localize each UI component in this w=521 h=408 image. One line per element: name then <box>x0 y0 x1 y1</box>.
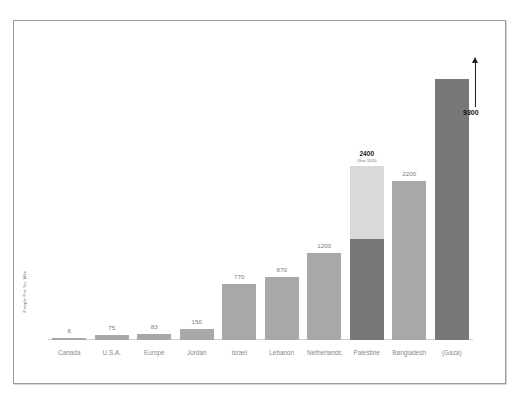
bar-slot: 14002400(Year 2020) <box>346 51 389 340</box>
bar-value-sublabel: (Year 2020) <box>357 159 377 163</box>
bar-segment <box>52 338 86 340</box>
bar-segment <box>392 181 426 341</box>
bar-series: 87583150770870120014002400(Year 2020)220… <box>48 51 473 340</box>
bar[interactable] <box>392 181 426 341</box>
bar-value-label: 83 <box>151 323 158 331</box>
bar-slot <box>431 51 474 340</box>
bar[interactable] <box>435 79 469 340</box>
bar-slot: 83 <box>133 51 176 340</box>
bar-value-label: 770 <box>234 273 244 281</box>
bar-segment <box>222 284 256 340</box>
chart-frame: People Per Sq. Mile 87583150770870120014… <box>13 20 506 384</box>
y-axis-label: People Per Sq. Mile <box>22 261 27 323</box>
bar-value-label: 1200 <box>317 242 331 250</box>
bar-slot: 8 <box>48 51 91 340</box>
bar-value-label: 150 <box>192 318 202 326</box>
arrow-stem <box>475 62 476 107</box>
bar-slot: 1200 <box>303 51 346 340</box>
bar[interactable] <box>265 277 299 340</box>
bar-segment <box>307 253 341 340</box>
bar-value-label: 870 <box>277 266 287 274</box>
annotation-value: 9300 <box>463 109 479 116</box>
bar-segment-upper <box>350 166 384 239</box>
bar-segment <box>435 79 469 340</box>
bar-segment <box>265 277 299 340</box>
bar[interactable] <box>52 338 86 340</box>
bar-value-label: 8 <box>68 327 71 335</box>
x-tick-label-gaza: (Gaza) <box>423 349 481 356</box>
bar[interactable] <box>307 253 341 340</box>
bar-slot: 2200 <box>388 51 431 340</box>
plot-area: People Per Sq. Mile 87583150770870120014… <box>14 21 507 385</box>
bar[interactable] <box>222 284 256 340</box>
bar[interactable] <box>95 335 129 340</box>
bar[interactable] <box>180 329 214 340</box>
bar-value-label: 2200 <box>402 170 416 178</box>
x-axis-tick-labels: CanadaU.S.A.EuropeJordanIsraelLebanonNet… <box>48 349 473 365</box>
bar-segment <box>137 334 171 340</box>
bar[interactable] <box>350 166 384 340</box>
bar-value-label: 75 <box>108 324 115 332</box>
bar-slot: 75 <box>91 51 134 340</box>
bar-slot: 150 <box>176 51 219 340</box>
bar-segment-lower <box>350 239 384 341</box>
bar-value-label: 2400(Year 2020) <box>357 150 377 163</box>
bar-segment <box>180 329 214 340</box>
bar-slot: 870 <box>261 51 304 340</box>
bar-slot: 770 <box>218 51 261 340</box>
bar-segment <box>95 335 129 340</box>
bar[interactable] <box>137 334 171 340</box>
